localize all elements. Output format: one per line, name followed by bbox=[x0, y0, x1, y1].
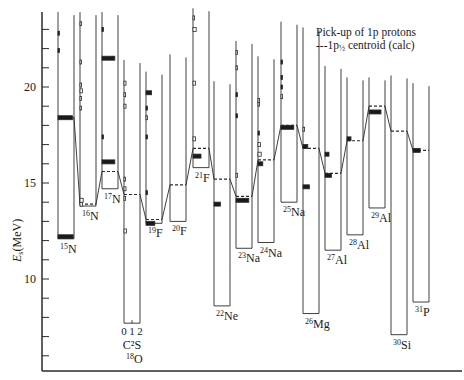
strength-bar bbox=[236, 93, 238, 97]
y-tick-label: 20 bbox=[24, 80, 36, 94]
strength-bar bbox=[281, 95, 283, 99]
strength-bar bbox=[124, 104, 126, 108]
nucleus-column-17N: 17N bbox=[102, 12, 124, 206]
strength-bar bbox=[80, 60, 82, 64]
strength-bar bbox=[214, 202, 220, 206]
strength-bar bbox=[146, 191, 148, 195]
strength-bar bbox=[58, 235, 73, 239]
svg-text:1: 1 bbox=[129, 325, 135, 337]
strength-bar bbox=[281, 85, 283, 89]
legend: Pick-up of 1p protons ---1p½ centroid (c… bbox=[316, 26, 416, 55]
strength-bar bbox=[102, 56, 115, 60]
nucleus-label: 22Ne bbox=[216, 309, 238, 323]
strength-bar bbox=[193, 81, 195, 85]
strength-bar bbox=[413, 148, 420, 152]
nucleus-column-20F: 20F bbox=[170, 54, 193, 238]
nucleus-label: 23Na bbox=[238, 251, 261, 265]
strength-bar bbox=[258, 98, 260, 102]
strength-bar bbox=[347, 137, 351, 141]
strength-bar bbox=[124, 229, 126, 233]
nucleus-label: 21F bbox=[195, 171, 210, 185]
strength-bar bbox=[80, 106, 82, 110]
strength-bar bbox=[80, 83, 82, 87]
strength-bar bbox=[236, 198, 249, 202]
nucleus-label: 30Si bbox=[393, 338, 412, 352]
strength-bar bbox=[281, 75, 283, 79]
strength-bar bbox=[58, 116, 72, 120]
strength-bar bbox=[303, 185, 309, 189]
strength-bar bbox=[124, 196, 126, 200]
nucleus-label: 26Mg bbox=[305, 317, 330, 331]
strength-bar bbox=[80, 22, 82, 26]
strength-bar bbox=[258, 152, 261, 156]
strength-bar bbox=[80, 202, 82, 206]
strength-bar bbox=[146, 91, 152, 95]
strength-bar bbox=[258, 162, 263, 166]
strength-bar bbox=[102, 27, 104, 31]
strength-bar bbox=[325, 152, 329, 156]
strength-bar bbox=[124, 177, 126, 181]
nucleus-label: 20F bbox=[172, 224, 187, 238]
nucleus-column-22Ne: 22Ne bbox=[214, 81, 238, 323]
strength-bar bbox=[193, 154, 201, 158]
y-tick-label: 15 bbox=[24, 176, 36, 190]
strength-bar bbox=[236, 173, 238, 177]
legend-entry-pickup: Pick-up of 1p protons bbox=[316, 26, 416, 39]
nucleus-label: 31P bbox=[415, 305, 430, 319]
legend-entry-centroid: ---1p½ centroid (calc) bbox=[316, 39, 416, 55]
c2s-scale-label: C²S bbox=[123, 338, 141, 352]
strength-bar bbox=[236, 66, 238, 70]
y-axis-label: Es(MeV) bbox=[10, 219, 25, 262]
strength-bar bbox=[124, 93, 126, 97]
nucleus-label: 19F bbox=[148, 226, 163, 240]
strength-bar bbox=[146, 221, 155, 225]
nucleus-column-30Si: 30Si bbox=[391, 75, 413, 351]
nucleus-column-24Na: 24Na bbox=[258, 56, 283, 259]
nucleus-label: 25Na bbox=[283, 205, 306, 219]
nucleus-column-16N: 16N bbox=[80, 12, 102, 223]
nucleus-column-25Na: 25Na bbox=[281, 22, 306, 219]
nucleus-label: 15N bbox=[60, 242, 77, 256]
nucleus-label: 28Al bbox=[349, 238, 370, 252]
strength-bar bbox=[80, 97, 82, 101]
strength-bar bbox=[58, 49, 60, 53]
y-tick-label: 10 bbox=[24, 272, 36, 286]
strength-bar bbox=[193, 137, 195, 141]
strength-bar bbox=[369, 110, 381, 114]
strength-bar bbox=[236, 50, 238, 54]
nucleus-label: 24Na bbox=[260, 246, 283, 260]
strength-bar bbox=[236, 114, 238, 118]
strength-bar bbox=[303, 127, 305, 131]
nucleus-column-31P: 31P bbox=[413, 83, 430, 319]
strength-bar bbox=[102, 135, 104, 139]
svg-text:0: 0 bbox=[121, 325, 127, 337]
nucleus-column-23Na: 23Na bbox=[236, 41, 261, 265]
strength-bar bbox=[80, 89, 82, 93]
nucleus-column-26Mg: 26Mg bbox=[303, 27, 330, 330]
strength-bar bbox=[193, 27, 196, 31]
strength-bar bbox=[146, 116, 148, 120]
strength-bar bbox=[146, 135, 148, 139]
strength-bar bbox=[146, 106, 148, 110]
strength-bar bbox=[281, 60, 283, 64]
strength-bar bbox=[124, 187, 126, 191]
strength-bar bbox=[102, 160, 115, 164]
nucleus-column-15N: 15N bbox=[58, 12, 80, 256]
strength-bar bbox=[303, 145, 308, 149]
strength-bar bbox=[193, 16, 195, 20]
nucleus-label: 17N bbox=[104, 192, 121, 206]
nucleus-label: 18O bbox=[126, 352, 143, 366]
nucleus-column-29Al: 29Al bbox=[369, 77, 392, 225]
svg-text:2: 2 bbox=[137, 325, 143, 337]
nuclei-columns: 15N16N17N18O012C²S19F20F21F22Ne23Na24Na2… bbox=[58, 8, 430, 366]
strength-bar bbox=[124, 81, 126, 85]
level-diagram-chart: 101520 15N16N17N18O012C²S19F20F21F22Ne23… bbox=[0, 0, 464, 380]
nucleus-label: 27Al bbox=[327, 253, 348, 267]
strength-bar bbox=[258, 143, 260, 147]
strength-bar bbox=[258, 131, 260, 135]
nucleus-column-18O: 18O012C²S bbox=[121, 60, 146, 366]
nucleus-label: 16N bbox=[82, 209, 99, 223]
nucleus-column-19F: 19F bbox=[146, 72, 170, 241]
axes: 101520 bbox=[24, 12, 462, 371]
nucleus-label: 29Al bbox=[371, 211, 392, 225]
